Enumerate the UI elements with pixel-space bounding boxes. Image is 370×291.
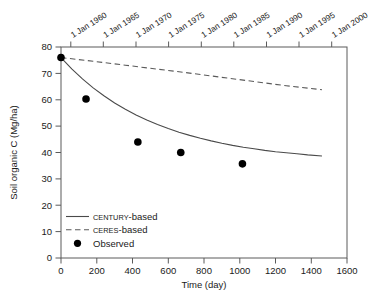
- y-tick-label: 40: [41, 147, 52, 158]
- x-tick-label: 600: [160, 265, 176, 276]
- observed-point: [82, 95, 90, 103]
- x-tick-label: 200: [89, 265, 105, 276]
- y-tick-label: 10: [41, 226, 52, 237]
- observed-point: [57, 54, 65, 62]
- legend-smallcaps-ceres: CERES: [93, 226, 119, 235]
- legend-label-century: CENTURY-based: [93, 211, 158, 222]
- x-tick-label: 1000: [229, 265, 250, 276]
- legend-suffix-ceres: -based: [118, 224, 147, 235]
- x-axis-title: Time (day): [181, 279, 226, 290]
- legend-smallcaps-century: CENTURY: [93, 213, 129, 222]
- chart-background: [0, 0, 370, 291]
- y-tick-label: 20: [41, 200, 52, 211]
- x-tick-label: 1200: [265, 265, 286, 276]
- x-tick-label: 400: [125, 265, 141, 276]
- y-axis-title: Soil organic C (Mg/ha): [8, 105, 19, 200]
- x-axis-tick-labels: 0 200 400 600 800 1000 1200 1400 1600: [58, 265, 357, 276]
- legend-label-observed: Observed: [93, 238, 134, 249]
- y-tick-label: 60: [41, 94, 52, 105]
- x-tick-label: 0: [58, 265, 63, 276]
- y-tick-label: 0: [47, 252, 52, 263]
- y-tick-label: 50: [41, 120, 52, 131]
- observed-point: [239, 160, 247, 168]
- y-tick-label: 80: [41, 41, 52, 52]
- y-tick-label: 70: [41, 68, 52, 79]
- y-tick-label: 30: [41, 173, 52, 184]
- x-tick-label: 800: [196, 265, 212, 276]
- observed-point: [134, 138, 142, 146]
- legend-suffix-century: -based: [129, 211, 158, 222]
- legend-marker-swatch: [74, 240, 81, 247]
- soil-organic-carbon-chart: 1 Jan 1960 1 Jan 1965 1 Jan 1970 1 Jan 1…: [0, 0, 370, 291]
- observed-point: [177, 149, 185, 157]
- legend-label-ceres: CERES-based: [93, 224, 148, 235]
- y-axis-tick-labels: 0 10 20 30 40 50 60 70 80: [41, 41, 52, 263]
- x-tick-label: 1600: [336, 265, 357, 276]
- x-tick-label: 1400: [301, 265, 322, 276]
